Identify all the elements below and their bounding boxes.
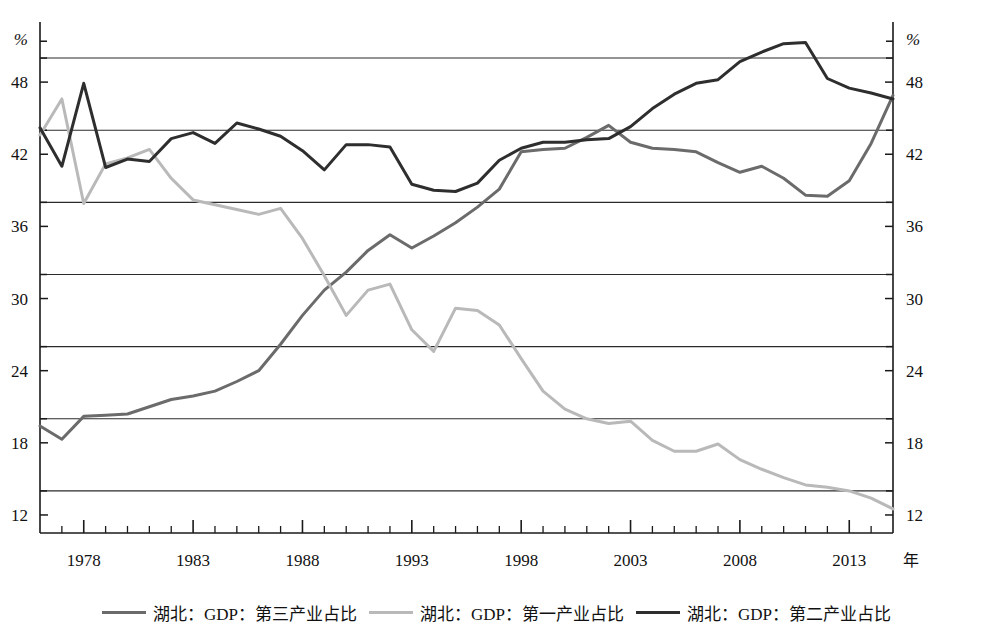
legend-label-primary: 湖北：GDP：第一产业占比 [420, 600, 624, 625]
y-axis-unit-left: % [14, 30, 28, 49]
y-tick-label-right: 48 [906, 73, 923, 92]
legend-label-tertiary: 湖北：GDP：第三产业占比 [153, 600, 357, 625]
axis-unit-labels: %%年 [14, 30, 920, 569]
x-axis-unit: 年 [903, 552, 919, 569]
chart-legend: 湖北：GDP：第三产业占比 湖北：GDP：第一产业占比 湖北：GDP：第二产业占… [0, 592, 981, 632]
y-tick-label-right: 42 [906, 145, 923, 164]
y-tick-label-left: 48 [11, 73, 28, 92]
line-chart: 12182430364248 12182430364248 1978198319… [0, 0, 981, 580]
legend-swatch-secondary [636, 611, 680, 614]
x-tick-label: 1988 [285, 551, 319, 570]
y-tick-label-right: 30 [906, 290, 923, 309]
x-tick-label: 2008 [723, 551, 757, 570]
y-tick-label-left: 12 [11, 506, 28, 525]
axis-ticks [40, 41, 893, 533]
legend-label-secondary: 湖北：GDP：第二产业占比 [687, 600, 891, 625]
y-tick-label-left: 18 [11, 434, 28, 453]
legend-item-tertiary[interactable]: 湖北：GDP：第三产业占比 [90, 600, 357, 625]
y-tick-label-left: 30 [11, 290, 28, 309]
y-tick-label-right: 12 [906, 506, 923, 525]
y-tick-label-left: 36 [11, 217, 28, 236]
series-line-tertiary [40, 95, 893, 439]
chart-page: 12182430364248 12182430364248 1978198319… [0, 0, 981, 637]
x-tick-label: 2013 [832, 551, 866, 570]
x-tick-label: 1978 [67, 551, 101, 570]
y-tick-label-right: 18 [906, 434, 923, 453]
y-axis-left-labels: 12182430364248 [11, 73, 29, 525]
y-axis-unit-right: % [906, 30, 920, 49]
x-tick-label: 1993 [395, 551, 429, 570]
x-tick-label: 1983 [176, 551, 210, 570]
y-tick-label-left: 24 [11, 362, 29, 381]
data-series [40, 42, 893, 509]
x-tick-label: 2003 [614, 551, 648, 570]
x-axis-labels: 19781983198819931998200320082013 [67, 551, 867, 570]
legend-swatch-primary [369, 611, 413, 614]
x-tick-label: 1998 [504, 551, 538, 570]
axis-frame [40, 22, 893, 533]
y-tick-label-right: 36 [906, 217, 923, 236]
y-axis-right-labels: 12182430364248 [906, 73, 924, 525]
y-tick-label-left: 42 [11, 145, 28, 164]
legend-item-secondary[interactable]: 湖北：GDP：第二产业占比 [624, 600, 891, 625]
legend-item-primary[interactable]: 湖北：GDP：第一产业占比 [357, 600, 624, 625]
y-tick-label-right: 24 [906, 362, 924, 381]
gridlines [40, 58, 893, 491]
legend-swatch-tertiary [102, 611, 146, 614]
series-line-primary [40, 99, 893, 509]
chart-plot-area: 12182430364248 12182430364248 1978198319… [0, 0, 981, 580]
